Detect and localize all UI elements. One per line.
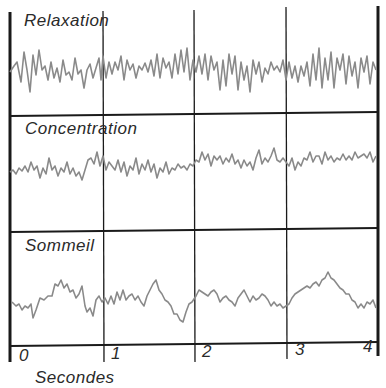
tick-label-3: 3 xyxy=(295,340,305,360)
trace-relaxation xyxy=(10,48,376,92)
trace-concentration xyxy=(10,148,376,180)
panel-label-sommeil: Sommeil xyxy=(25,236,95,256)
eeg-diagram xyxy=(0,0,386,388)
tick-label-2: 2 xyxy=(202,342,212,362)
tick-label-1: 1 xyxy=(111,344,121,364)
trace-sommeil xyxy=(12,272,376,322)
panel-label-relaxation: Relaxation xyxy=(24,11,109,31)
axis-unit-label: Secondes xyxy=(35,368,115,388)
grid xyxy=(10,6,378,362)
panel-label-concentration: Concentration xyxy=(25,119,137,139)
time-axis xyxy=(10,342,378,346)
tick-label-0: 0 xyxy=(19,346,29,366)
tick-label-4: 4 xyxy=(363,337,373,357)
